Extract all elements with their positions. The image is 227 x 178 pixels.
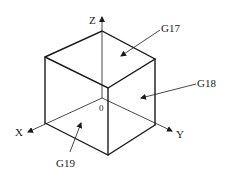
cube-top-face-edges xyxy=(45,31,155,88)
origin-label: 0 xyxy=(99,103,104,113)
g18-leader-arrow xyxy=(141,84,196,98)
y-axis-label: Y xyxy=(176,128,184,140)
g17-label: G17 xyxy=(161,22,180,34)
cube-bottom-edges xyxy=(45,123,155,155)
x-axis xyxy=(28,98,102,132)
x-axis-label: X xyxy=(15,126,23,138)
z-axis-label: Z xyxy=(89,14,96,26)
cube xyxy=(45,31,155,155)
plane-selection-cube-diagram: Z X Y 0 G17 G18 G19 xyxy=(0,0,227,178)
g18-label: G18 xyxy=(197,77,216,89)
g19-label: G19 xyxy=(56,157,75,169)
y-axis xyxy=(102,98,172,131)
axes xyxy=(28,17,172,132)
g19-leader-arrow xyxy=(70,123,81,152)
